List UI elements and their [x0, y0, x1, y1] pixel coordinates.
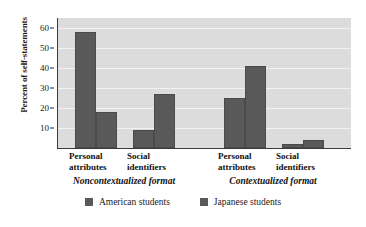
legend-swatch-icon	[85, 198, 93, 206]
format-label: Noncontextualized format	[73, 176, 175, 186]
category-label-line1: Personal	[69, 151, 107, 162]
bar	[133, 130, 154, 148]
category-label: Personalattributes	[218, 151, 256, 172]
category-label-line1: Personal	[218, 151, 256, 162]
bar	[75, 32, 96, 148]
legend-item: Japanese students	[200, 197, 281, 207]
legend-swatch-icon	[200, 198, 208, 206]
y-tick-label: 50	[40, 43, 49, 53]
bar-chart-figure: Percent of self-statements 102030405060 …	[0, 0, 366, 227]
bar	[96, 112, 117, 148]
gridline	[58, 108, 351, 109]
chart-legend: American studentsJapanese students	[0, 197, 366, 207]
bar	[224, 98, 245, 148]
category-label-line2: identifiers	[127, 162, 166, 173]
y-axis-ticks: 102030405060	[30, 18, 54, 148]
category-label-line2: attributes	[218, 162, 256, 173]
gridline	[58, 68, 351, 69]
gridline	[58, 48, 351, 49]
y-tick-mark	[50, 88, 54, 89]
y-tick-label: 60	[40, 23, 49, 33]
y-tick-label: 40	[40, 63, 49, 73]
legend-label: American students	[99, 197, 170, 207]
y-axis-title: Percent of self-statements	[19, 0, 29, 135]
format-label: Contextualized format	[229, 176, 316, 186]
plot-area	[57, 18, 351, 149]
category-label: Socialidentifiers	[276, 151, 315, 172]
bar	[303, 140, 324, 148]
gridline	[58, 28, 351, 29]
category-label-line2: identifiers	[276, 162, 315, 173]
category-label-line2: attributes	[69, 162, 107, 173]
bar	[154, 94, 175, 148]
y-tick-mark	[50, 128, 54, 129]
category-label: Socialidentifiers	[127, 151, 166, 172]
y-tick-mark	[50, 68, 54, 69]
category-label-line1: Social	[127, 151, 166, 162]
category-label-line1: Social	[276, 151, 315, 162]
bar	[282, 144, 303, 148]
y-tick-mark	[50, 28, 54, 29]
y-tick-label: 20	[40, 103, 49, 113]
gridline	[58, 88, 351, 89]
y-tick-mark	[50, 108, 54, 109]
bar	[245, 66, 266, 148]
y-tick-mark	[50, 48, 54, 49]
legend-label: Japanese students	[214, 197, 281, 207]
y-tick-label: 10	[40, 123, 49, 133]
legend-item: American students	[85, 197, 170, 207]
category-label: Personalattributes	[69, 151, 107, 172]
y-tick-label: 30	[40, 83, 49, 93]
